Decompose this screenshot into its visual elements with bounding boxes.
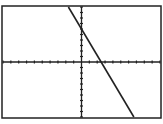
- graph-screen: [0, 0, 163, 124]
- graph-plot: [0, 0, 163, 124]
